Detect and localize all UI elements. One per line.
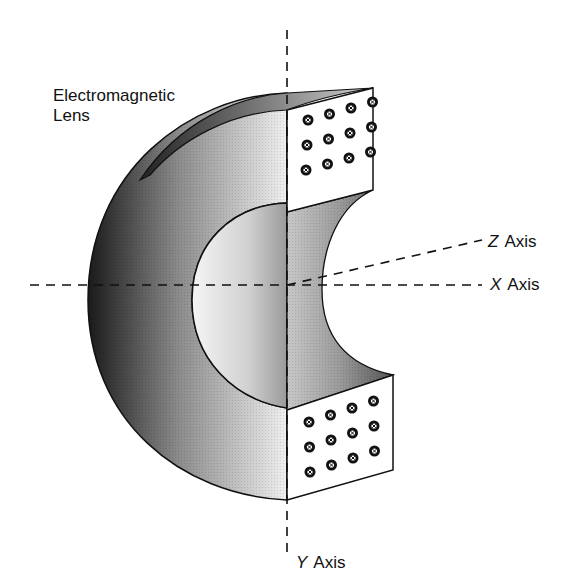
y-axis-label: YAxis xyxy=(296,553,345,573)
z-axis-label: ZAxis xyxy=(488,232,537,252)
top-pole-face xyxy=(287,88,373,212)
lens-label-line2: Lens xyxy=(53,106,175,126)
lens-label: Electromagnetic Lens xyxy=(53,86,175,126)
x-axis-label: XAxis xyxy=(490,275,539,295)
lens-label-line1: Electromagnetic xyxy=(53,86,175,106)
